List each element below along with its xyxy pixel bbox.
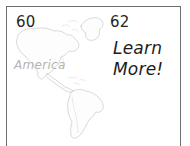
page-number-right: 62 bbox=[110, 15, 130, 30]
learn-more-line-2: More! bbox=[113, 59, 181, 80]
learn-more-callout[interactable]: Learn More! bbox=[113, 38, 181, 80]
scanned-page: 60 62 America Learn More! bbox=[0, 0, 190, 143]
learn-more-line-1: Learn bbox=[113, 38, 181, 59]
map-region-label-america: America bbox=[14, 59, 66, 71]
page-number-left: 60 bbox=[16, 15, 36, 30]
